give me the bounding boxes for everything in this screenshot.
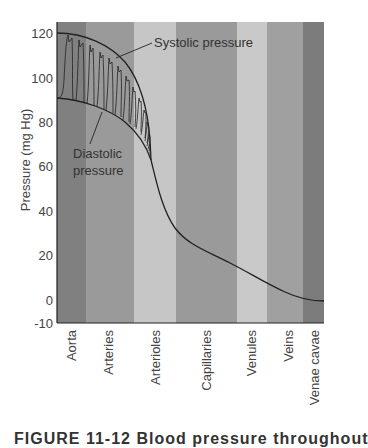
band-capillaries: [176, 22, 237, 323]
y-tick-60: 60: [39, 159, 53, 174]
diastolic-label-line1: Diastolic: [73, 146, 123, 161]
diastolic-label-line2: pressure: [73, 163, 124, 178]
systolic-label: Systolic pressure: [154, 35, 253, 50]
y-tick-120: 120: [31, 26, 53, 41]
y-axis-label: Pressure (mg Hg): [18, 109, 33, 212]
x-label-venules: Venules: [244, 330, 259, 377]
y-tick-neg10: -10: [34, 316, 53, 331]
y-tick-20: 20: [39, 248, 53, 263]
band-veins: [267, 22, 303, 323]
x-label-arterioles: Arterioles: [148, 330, 163, 385]
x-label-veins: Veins: [281, 330, 296, 362]
x-label-arteries: Arteries: [101, 330, 116, 375]
band-venae-cavae: [303, 22, 324, 323]
y-tick-100: 100: [31, 71, 53, 86]
figure-caption: FIGURE 11-12 Blood pressure throughout: [14, 430, 368, 448]
band-venules: [237, 22, 267, 323]
x-label-aorta: Aorta: [64, 329, 79, 361]
x-label-venae-cavae: Venae cavae: [307, 330, 322, 405]
y-tick-40: 40: [39, 204, 53, 219]
x-tick-labels: Aorta Arteries Arterioles Capillaries Ve…: [64, 329, 322, 405]
y-tick-80: 80: [39, 115, 53, 130]
y-tick-0: 0: [46, 293, 53, 308]
x-label-capillaries: Capillaries: [199, 330, 214, 391]
band-arterioles: [134, 22, 176, 323]
y-tick-labels: 120 100 80 60 40 20 0 -10: [31, 26, 53, 331]
